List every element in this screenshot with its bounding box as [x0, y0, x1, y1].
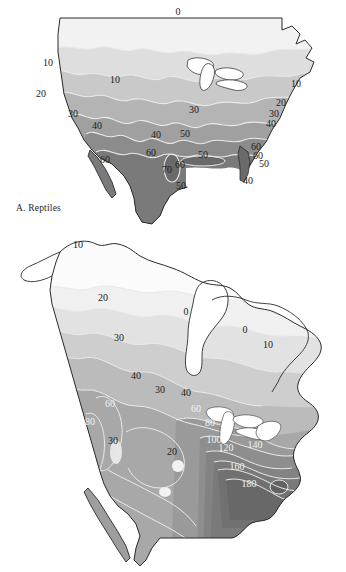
west-low-pocket-3 [159, 487, 171, 497]
species-richness-figure: 0101010202030303040404050606060606070505… [0, 0, 346, 572]
contour-label-trees-10: 80 [85, 416, 95, 427]
contour-label-reptiles-20: 50 [259, 158, 269, 169]
reptiles-contour-map: 0101010202030303040404050606060606070505… [0, 0, 346, 232]
trees-contour-map: 1020001030403040608060801001201401601803… [0, 232, 346, 572]
contour-label-trees-2: 0 [184, 306, 189, 317]
panel-reptiles: 0101010202030303040404050606060606070505… [0, 0, 346, 232]
contour-label-reptiles-1: 10 [43, 57, 53, 68]
contour-label-trees-9: 60 [105, 398, 115, 409]
contour-label-reptiles-12: 50 [180, 128, 190, 139]
contour-label-reptiles-18: 70 [162, 164, 172, 175]
contour-label-trees-3: 0 [243, 324, 248, 335]
contour-label-trees-8: 40 [181, 387, 191, 398]
contour-label-trees-6: 40 [131, 370, 141, 381]
contour-label-reptiles-4: 20 [36, 88, 46, 99]
gulf-of-mexico-reptiles [186, 167, 248, 192]
contour-label-trees-17: 180 [242, 478, 257, 489]
contour-label-trees-19: 20 [167, 446, 177, 457]
panel-trees: 1020001030403040608060801001201401601803… [0, 232, 346, 572]
contour-label-reptiles-11: 40 [266, 118, 276, 129]
contour-label-reptiles-10: 40 [151, 129, 161, 140]
contour-label-reptiles-5: 20 [276, 97, 286, 108]
contour-label-reptiles-14: 60 [146, 147, 156, 158]
contour-label-reptiles-21: 50 [176, 180, 186, 191]
contour-label-trees-12: 80 [205, 417, 215, 428]
contour-label-trees-7: 30 [155, 384, 165, 395]
contour-label-trees-0: 10 [73, 239, 83, 250]
contour-label-reptiles-2: 10 [110, 74, 120, 85]
contour-label-trees-16: 160 [230, 461, 245, 472]
contour-label-trees-4: 10 [263, 339, 273, 350]
west-low-pocket-2 [172, 460, 184, 472]
reptiles-bands [0, 0, 346, 232]
contour-label-reptiles-3: 10 [291, 78, 301, 89]
contour-label-trees-1: 20 [98, 292, 108, 303]
contour-label-trees-5: 30 [114, 332, 124, 343]
contour-label-reptiles-0: 0 [176, 6, 181, 17]
contour-label-trees-18: 30 [108, 435, 118, 446]
contour-label-trees-15: 140 [248, 439, 263, 450]
contour-label-reptiles-9: 40 [92, 120, 102, 131]
trees-bands [0, 232, 346, 572]
contour-label-reptiles-15: 60 [175, 159, 185, 170]
contour-label-trees-11: 60 [191, 403, 201, 414]
caption-panel-a: A. Reptiles [16, 203, 61, 213]
contour-label-reptiles-13: 60 [100, 154, 110, 165]
contour-label-reptiles-19: 50 [198, 149, 208, 160]
contour-label-reptiles-7: 30 [189, 104, 199, 115]
contour-label-trees-14: 120 [219, 442, 234, 453]
contour-label-reptiles-6: 30 [68, 108, 78, 119]
contour-label-reptiles-22: 40 [243, 175, 253, 186]
